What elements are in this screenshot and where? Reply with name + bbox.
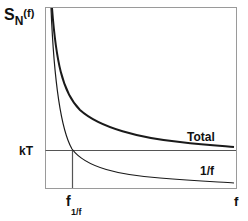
one-over-f-label: 1/f bbox=[200, 164, 214, 178]
total-label: Total bbox=[187, 130, 215, 144]
y-axis-suffix: (f) bbox=[23, 7, 34, 19]
corner-frequency-label: f bbox=[66, 193, 71, 209]
x-axis-label: f bbox=[234, 194, 238, 209]
total-curve bbox=[52, 8, 234, 147]
noise-spectrum-plot bbox=[0, 0, 248, 221]
y-axis-symbol: S bbox=[4, 6, 15, 23]
plot-frame bbox=[46, 8, 237, 189]
corner-frequency-subscript: 1/f bbox=[71, 207, 82, 217]
corner-frequency-symbol: f bbox=[66, 193, 71, 209]
y-axis-label: SN(f) bbox=[4, 6, 34, 24]
one-over-f-curve bbox=[51, 8, 234, 183]
kt-label: kT bbox=[19, 144, 33, 158]
